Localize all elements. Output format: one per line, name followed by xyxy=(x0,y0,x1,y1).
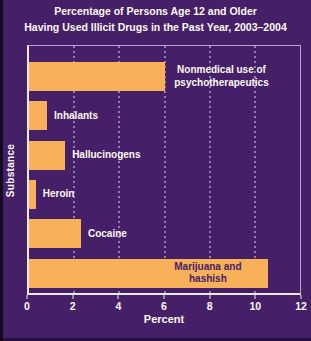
bar-label: Marijuana and hashish xyxy=(160,261,255,286)
y-axis-title: Substance xyxy=(3,45,18,295)
x-tick-mark xyxy=(118,295,119,299)
x-tick-mark xyxy=(27,295,28,299)
bar-label: Hallucinogens xyxy=(72,149,140,162)
bar-row: Inhalants xyxy=(29,96,300,135)
y-axis-title-text: Substance xyxy=(5,143,16,196)
chart-title: Percentage of Persons Age 12 and Older H… xyxy=(0,4,311,36)
bar-label: Heroin xyxy=(43,188,75,201)
bar-label: Cocaine xyxy=(88,228,127,241)
bar-row: Marijuana and hashish xyxy=(29,254,300,293)
x-tick-mark xyxy=(164,295,165,299)
x-axis-tick-labels: 0 2 4 6 8 10 12 xyxy=(27,300,301,312)
x-tick-label: 12 xyxy=(295,300,307,312)
chart-title-line2: Having Used Illicit Drugs in the Past Ye… xyxy=(0,20,311,36)
bar xyxy=(29,141,65,170)
bar-row: Nonmedical use of psychotherapeutics xyxy=(29,57,300,96)
bar-label: Inhalants xyxy=(54,110,98,123)
x-tick-label: 4 xyxy=(115,300,121,312)
x-tick-mark xyxy=(301,295,302,299)
x-tick-mark xyxy=(209,295,210,299)
x-tick-label: 2 xyxy=(70,300,76,312)
x-axis-title: Percent xyxy=(27,313,301,325)
bar: Marijuana and hashish xyxy=(29,259,268,288)
bar-row: Cocaine xyxy=(29,214,300,253)
bar xyxy=(29,180,36,209)
chart-title-line1: Percentage of Persons Age 12 and Older xyxy=(0,4,311,20)
plot-area: Nonmedical use of psychotherapeutics Inh… xyxy=(27,45,301,295)
bar-rows: Nonmedical use of psychotherapeutics Inh… xyxy=(29,46,300,293)
bar-row: Hallucinogens xyxy=(29,136,300,175)
x-tick-mark xyxy=(255,295,256,299)
x-tick-label: 6 xyxy=(161,300,167,312)
bar xyxy=(29,62,165,91)
x-axis-tick-marks xyxy=(27,295,301,299)
bar-row: Heroin xyxy=(29,175,300,214)
bar xyxy=(29,101,47,130)
scan-edge-left xyxy=(0,0,3,341)
x-tick-label: 0 xyxy=(24,300,30,312)
x-tick-mark xyxy=(72,295,73,299)
x-tick-label: 8 xyxy=(207,300,213,312)
bar xyxy=(29,219,81,248)
x-tick-label: 10 xyxy=(249,300,261,312)
bar-label: Nonmedical use of psychotherapeutics xyxy=(172,64,272,89)
